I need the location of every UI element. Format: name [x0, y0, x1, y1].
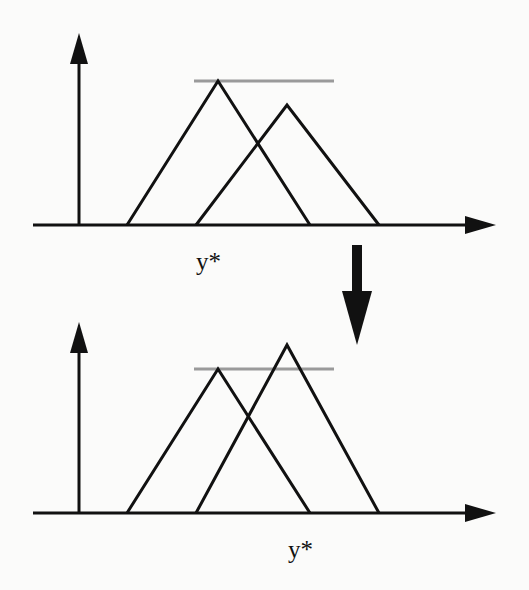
top-panel: y* [33, 33, 496, 275]
bottom-y-star-label: y* [288, 536, 313, 563]
bottom-y-axis-arrowhead-icon [70, 322, 88, 353]
top-x-axis-arrowhead-icon [465, 216, 496, 234]
down-arrow-icon [342, 245, 372, 345]
top-membership-right [196, 105, 379, 225]
top-y-axis-arrowhead-icon [70, 33, 88, 64]
top-y-star-label: y* [196, 248, 221, 275]
bottom-panel: y* [33, 322, 496, 563]
bottom-x-axis-arrowhead-icon [465, 504, 496, 522]
diagram-canvas: y* y* [0, 0, 529, 590]
bottom-membership-left [127, 369, 310, 513]
top-membership-left [127, 81, 310, 225]
